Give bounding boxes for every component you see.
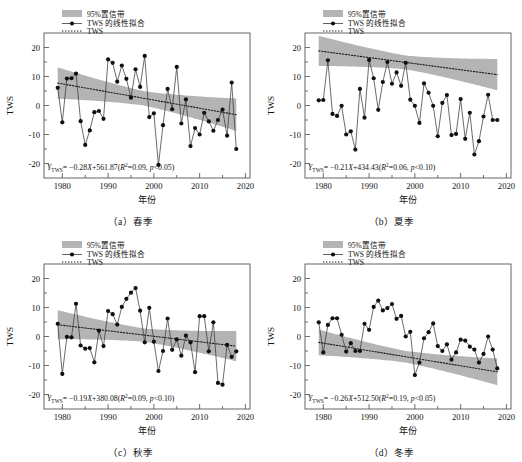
data-point-2002 — [161, 349, 165, 353]
data-point-2014 — [216, 381, 220, 385]
data-point-1984 — [79, 119, 83, 123]
data-point-2004 — [170, 107, 174, 111]
data-point-2009 — [454, 350, 458, 354]
data-point-2010 — [459, 338, 463, 342]
x-tick-label-2000: 2000 — [145, 412, 162, 422]
data-point-2003 — [427, 91, 431, 95]
data-point-1989 — [362, 322, 366, 326]
x-tick-label-2000: 2000 — [145, 181, 162, 191]
data-point-1984 — [340, 104, 344, 108]
data-point-2018 — [495, 366, 499, 370]
data-point-1995 — [129, 291, 133, 295]
data-point-1991 — [111, 61, 115, 65]
data-point-1979 — [317, 98, 321, 102]
legend-label-tws: TWS — [87, 258, 103, 267]
data-point-1986 — [88, 346, 92, 350]
data-point-2013 — [211, 129, 215, 133]
chart-panel-d: 1980199020002010202020100-10-2095%置信带TWS… — [261, 231, 522, 462]
data-point-1990 — [367, 58, 371, 62]
y-axis-title: TWS — [5, 327, 15, 346]
data-point-2004 — [431, 321, 435, 325]
data-point-2007 — [445, 93, 449, 97]
data-point-2014 — [477, 361, 481, 365]
x-tick-label-2020: 2020 — [498, 412, 515, 422]
data-point-2006 — [440, 349, 444, 353]
data-point-1990 — [106, 309, 110, 313]
legend-swatch-band — [323, 241, 343, 248]
data-point-2010 — [198, 314, 202, 318]
legend-label-band: 95%置信带 — [87, 9, 125, 19]
data-point-2014 — [477, 139, 481, 143]
y-tick-label--10: -10 — [290, 130, 301, 140]
data-point-1982 — [69, 335, 73, 339]
data-point-1985 — [344, 349, 348, 353]
data-point-2000 — [413, 104, 417, 108]
x-tick-label-1980: 1980 — [315, 412, 332, 422]
y-tick-label-0: 0 — [297, 332, 301, 342]
x-tick-label-1990: 1990 — [99, 181, 116, 191]
chart-panel-c: 1980199020002010202020100-10-2095%置信带TWS… — [0, 231, 261, 462]
data-point-1988 — [97, 109, 101, 113]
data-point-2012 — [468, 345, 472, 349]
x-tick-label-2020: 2020 — [237, 412, 254, 422]
legend-marker-fit — [331, 252, 335, 256]
data-point-2008 — [449, 133, 453, 137]
data-point-2016 — [486, 334, 490, 338]
data-point-1998 — [143, 54, 147, 58]
data-point-1980 — [321, 98, 325, 102]
data-point-2011 — [202, 314, 206, 318]
data-point-1995 — [390, 82, 394, 86]
legend-label-tws: TWS — [348, 27, 364, 36]
data-point-1986 — [88, 128, 92, 132]
data-point-2011 — [463, 137, 467, 141]
data-point-1980 — [60, 120, 64, 124]
data-point-1998 — [143, 340, 147, 344]
data-point-2003 — [427, 330, 431, 334]
data-point-1980 — [60, 372, 64, 376]
data-point-1998 — [404, 334, 408, 338]
data-point-2011 — [202, 111, 206, 115]
data-point-2007 — [184, 97, 188, 101]
y-tick-label-20: 20 — [292, 43, 301, 53]
chart-panel-b: 1980199020002010202020100-10-2095%置信带TWS… — [261, 0, 522, 231]
data-point-1988 — [358, 87, 362, 91]
data-point-1997 — [399, 314, 403, 318]
x-axis-title: 年份 — [399, 425, 417, 436]
regression-equation: YTWS= −0.26X+512.50(R2=0.19, p<0.05) — [308, 393, 436, 403]
data-point-2010 — [459, 97, 463, 101]
data-point-2016 — [486, 93, 490, 97]
y-tick-label--20: -20 — [290, 390, 301, 400]
legend-label-band: 95%置信带 — [348, 9, 386, 19]
x-tick-label-2020: 2020 — [237, 181, 254, 191]
y-tick-label--10: -10 — [29, 130, 40, 140]
data-point-2015 — [220, 383, 224, 387]
data-point-1993 — [381, 80, 385, 84]
x-tick-label-1980: 1980 — [54, 181, 71, 191]
data-point-1990 — [106, 57, 110, 61]
data-point-2012 — [468, 111, 472, 115]
data-point-1995 — [129, 96, 133, 100]
data-point-2000 — [152, 340, 156, 344]
y-tick-label--10: -10 — [290, 361, 301, 371]
data-point-2012 — [207, 349, 211, 353]
data-point-1993 — [381, 308, 385, 312]
data-point-1981 — [326, 58, 330, 62]
legend-label-tws: TWS — [87, 27, 103, 36]
data-point-2006 — [440, 101, 444, 105]
data-point-2000 — [152, 111, 156, 115]
data-point-1979 — [317, 320, 321, 324]
data-point-1997 — [138, 85, 142, 89]
data-point-1992 — [115, 80, 119, 84]
data-point-2000 — [413, 373, 417, 377]
data-point-1997 — [138, 309, 142, 313]
data-point-1987 — [353, 349, 357, 353]
data-point-1996 — [133, 67, 137, 71]
legend-swatch-band — [323, 10, 343, 17]
data-point-2007 — [445, 342, 449, 346]
data-point-2017 — [491, 347, 495, 351]
x-tick-label-2000: 2000 — [406, 412, 423, 422]
data-point-1990 — [367, 328, 371, 332]
data-point-2013 — [472, 152, 476, 156]
y-tick-label-10: 10 — [31, 303, 40, 313]
data-point-1979 — [56, 86, 60, 90]
